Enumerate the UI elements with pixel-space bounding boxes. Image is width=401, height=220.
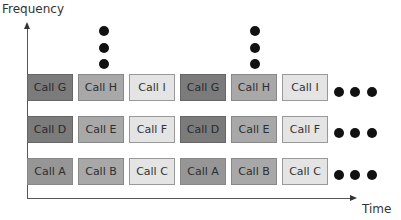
horizontal-ellipsis-dot-icon xyxy=(367,128,377,138)
call-box: Call C xyxy=(129,158,175,185)
horizontal-ellipsis-dot-icon xyxy=(350,128,360,138)
horizontal-ellipsis-dot-icon xyxy=(367,170,377,180)
call-box: Call D xyxy=(180,116,226,143)
call-box: Call G xyxy=(27,74,73,101)
call-box: Call E xyxy=(231,116,277,143)
vertical-ellipsis-dot-icon xyxy=(99,26,109,36)
call-box: Call B xyxy=(231,158,277,185)
vertical-ellipsis-dot-icon xyxy=(99,59,109,69)
call-box: Call D xyxy=(27,116,73,143)
call-box: Call F xyxy=(282,116,328,143)
x-axis-arrow-icon xyxy=(350,195,357,201)
horizontal-ellipsis-dot-icon xyxy=(334,128,344,138)
vertical-ellipsis-dot-icon xyxy=(99,43,109,53)
call-box: Call C xyxy=(282,158,328,185)
y-axis-arrow-icon xyxy=(24,22,30,29)
call-box: Call I xyxy=(129,74,175,101)
frequency-axis-label: Frequency xyxy=(2,2,64,16)
vertical-ellipsis-dot-icon xyxy=(250,43,260,53)
vertical-ellipsis-dot-icon xyxy=(250,59,260,69)
call-box: Call A xyxy=(180,158,226,185)
call-box: Call B xyxy=(78,158,124,185)
call-box: Call F xyxy=(129,116,175,143)
call-box: Call E xyxy=(78,116,124,143)
horizontal-ellipsis-dot-icon xyxy=(367,87,377,97)
x-axis-line xyxy=(27,198,351,199)
call-box: Call A xyxy=(27,158,73,185)
horizontal-ellipsis-dot-icon xyxy=(334,170,344,180)
call-box: Call I xyxy=(282,74,328,101)
time-axis-label: Time xyxy=(362,202,391,216)
horizontal-ellipsis-dot-icon xyxy=(334,87,344,97)
call-box: Call H xyxy=(231,74,277,101)
call-box: Call H xyxy=(78,74,124,101)
call-box: Call G xyxy=(180,74,226,101)
vertical-ellipsis-dot-icon xyxy=(250,26,260,36)
horizontal-ellipsis-dot-icon xyxy=(350,170,360,180)
horizontal-ellipsis-dot-icon xyxy=(350,87,360,97)
